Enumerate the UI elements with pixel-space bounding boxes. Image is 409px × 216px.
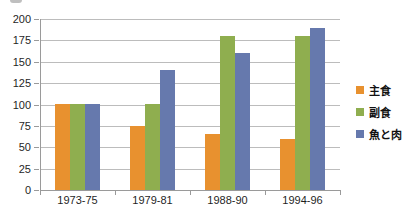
legend-item: 主食 [356,83,402,96]
legend-swatch [356,86,364,94]
y-axis-tick-label: 25 [0,163,31,176]
chart-legend: 主食副食魚と肉 [356,83,402,140]
legend-label: 主食 [369,82,391,98]
x-axis-category-label: 1988-90 [190,194,265,206]
gridline [40,19,340,20]
bar-主食-1994-96 [280,139,295,190]
bar-副食-1979-81 [145,104,160,190]
y-axis-tick-label: 75 [0,120,31,133]
bar-chart-screenshot: 0255075100125150175200 1973-751979-81198… [0,0,409,216]
y-axis-tick [34,169,39,170]
legend-label: 副食 [369,104,391,120]
y-axis-tick-label: 200 [0,13,31,26]
bar-主食-1979-81 [130,126,145,190]
legend-label: 魚と肉 [369,126,402,142]
y-axis-tick-label: 175 [0,34,31,47]
y-axis-tick-label: 0 [0,184,31,197]
x-axis-category-label: 1994-96 [265,194,340,206]
scan-artifact-smudge [10,0,22,3]
x-axis-tick [340,191,341,195]
y-axis-tick [34,19,39,20]
x-axis-category-label: 1979-81 [115,194,190,206]
y-axis-tick-label: 100 [0,99,31,112]
y-axis-tick [34,147,39,148]
legend-item: 魚と肉 [356,127,402,140]
y-axis-tick [34,190,39,191]
bar-主食-1973-75 [55,104,70,190]
bar-副食-1973-75 [70,104,85,190]
legend-swatch [356,130,364,138]
y-axis-tick-label: 125 [0,77,31,90]
bar-魚と肉-1979-81 [160,70,175,190]
bar-主食-1988-90 [205,134,220,190]
y-axis-tick-label: 150 [0,56,31,69]
y-axis-tick [34,126,39,127]
bar-魚と肉-1988-90 [235,53,250,190]
y-axis-tick [34,62,39,63]
y-axis-tick [34,105,39,106]
y-axis-tick [34,40,39,41]
bar-副食-1988-90 [220,36,235,190]
y-axis-line [40,19,41,194]
legend-swatch [356,108,364,116]
bar-副食-1994-96 [295,36,310,190]
bar-魚と肉-1994-96 [310,28,325,190]
legend-item: 副食 [356,105,402,118]
bar-魚と肉-1973-75 [85,104,100,190]
x-axis-category-label: 1973-75 [40,194,115,206]
y-axis-tick [34,83,39,84]
y-axis-tick-label: 50 [0,141,31,154]
